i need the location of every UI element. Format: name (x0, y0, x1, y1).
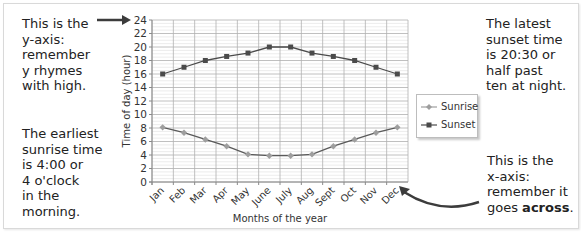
x-tick-label: Sept (313, 185, 337, 209)
sunrise-point (245, 151, 251, 157)
x-tick-label: Mar (188, 184, 210, 206)
sunset-point (395, 72, 400, 77)
sunrise-point (266, 152, 272, 158)
legend-label-sunrise: Sunrise (441, 101, 478, 112)
x-tick-label: Dec (379, 185, 400, 206)
x-axis-label: Months of the year (233, 213, 328, 224)
y-tick-label: 4 (140, 149, 147, 161)
y-arrow-head (122, 15, 131, 25)
sunrise-point (309, 151, 315, 157)
sunset-point (331, 54, 336, 59)
y-tick-label: 20 (134, 41, 147, 53)
x-tick-label: May (229, 185, 251, 207)
y-tick-label: 12 (134, 95, 147, 107)
sunset-point (160, 72, 165, 77)
sunrise-point (394, 124, 400, 130)
x-arrow-curve (404, 192, 479, 207)
y-tick-label: 16 (134, 68, 148, 80)
x-axis-arrow (399, 186, 479, 207)
legend-label-sunset: Sunset (441, 119, 475, 130)
y-tick-label: 24 (134, 14, 148, 26)
grid (149, 20, 408, 185)
y-tick-label: 8 (140, 122, 147, 134)
sunset-point (203, 58, 208, 63)
sunrise-swatch-icon (421, 103, 437, 111)
line-chart: 024681012141618202224 JanFebMarAprMayJun… (0, 0, 581, 233)
y-tick-label: 14 (134, 81, 148, 93)
y-tick-label: 6 (140, 135, 147, 147)
sunrise-point (287, 152, 293, 158)
x-tick-label: Apr (210, 184, 231, 205)
x-tick-label: Jan (147, 185, 166, 204)
sunset-point (288, 45, 293, 50)
sunset-point (310, 51, 315, 56)
y-tick-label: 2 (140, 162, 147, 174)
y-tick-label: 10 (134, 108, 147, 120)
x-tick-label: Aug (294, 185, 316, 207)
sunset-point (267, 45, 272, 50)
x-tick-label: June (249, 185, 273, 209)
y-axis-ticks: 024681012141618202224 (134, 14, 152, 188)
y-tick-label: 18 (134, 54, 147, 66)
y-tick-label: 22 (134, 27, 147, 39)
sunrise-point (159, 124, 165, 130)
sunset-point (182, 65, 187, 70)
sunset-point (246, 51, 251, 56)
sunset-swatch-icon (421, 121, 437, 129)
x-axis-ticks: JanFebMarAprMayJuneJulyAugSeptOctNovDec (147, 182, 401, 209)
legend-item-sunset: Sunset (421, 119, 475, 130)
legend: Sunrise Sunset (416, 94, 478, 138)
y-axis-arrow (97, 15, 131, 25)
sunset-point (374, 65, 379, 70)
x-tick-label: Oct (338, 185, 358, 205)
sunset-point (352, 58, 357, 63)
sunset-point (224, 54, 229, 59)
x-tick-label: Feb (167, 185, 187, 205)
x-tick-label: July (273, 185, 294, 206)
y-axis-label: Time of day (hour) (121, 55, 132, 149)
legend-item-sunrise: Sunrise (421, 101, 478, 112)
y-tick-label: 0 (140, 176, 147, 188)
x-tick-label: Nov (358, 185, 380, 207)
